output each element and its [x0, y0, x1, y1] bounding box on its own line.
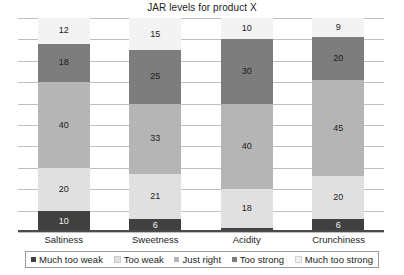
category-label-sweetness: Sweetness: [129, 234, 181, 246]
legend-item[interactable]: Much too weak: [31, 254, 103, 265]
category-label-acidity: Acidity: [221, 234, 273, 246]
legend-label: Much too weak: [39, 254, 103, 265]
legend-item[interactable]: Too weak: [114, 254, 164, 265]
bar-group[interactable]: 62045209: [312, 18, 364, 232]
bar-segment[interactable]: 30: [221, 39, 273, 103]
category-label-saltiness: Saltiness: [38, 234, 90, 246]
legend-swatch-icon: [232, 257, 237, 262]
legend-swatch-icon: [31, 257, 36, 262]
bar-segment-value: 40: [242, 142, 252, 151]
bar-segment-value: 6: [336, 221, 341, 230]
category-axis-labels: SaltinessSweetnessAcidityCrunchiness: [18, 234, 384, 246]
chart-container: JAR levels for product X 102040181262133…: [0, 0, 404, 275]
bar-segment[interactable]: 10: [38, 211, 90, 232]
bar-segment-value: 6: [153, 221, 158, 230]
bar-segment[interactable]: 9: [312, 18, 364, 37]
bar-segment-value: 20: [333, 193, 343, 202]
bar-segment-value: 20: [59, 185, 69, 194]
bar-segment[interactable]: 20: [38, 168, 90, 211]
bar-segment[interactable]: 15: [129, 18, 181, 50]
bar-segment-value: 18: [242, 204, 252, 213]
bar-segment-value: 15: [150, 30, 160, 39]
legend-item[interactable]: Much too strong: [295, 254, 373, 265]
legend-swatch-icon: [295, 256, 302, 263]
bar-segment-value: 21: [150, 192, 160, 201]
bar-segment[interactable]: 45: [312, 80, 364, 176]
bar-segment[interactable]: 10: [221, 18, 273, 39]
category-label-crunchiness: Crunchiness: [312, 234, 364, 246]
bar-segment[interactable]: 40: [221, 104, 273, 190]
legend-label: Just right: [182, 254, 221, 265]
x-axis-line: [18, 230, 384, 232]
bar-segment-value: 25: [150, 72, 160, 81]
bar-group[interactable]: 621332515: [129, 18, 181, 232]
plot-area: 102040181262133251521840301062045209: [18, 18, 384, 232]
legend-label: Much too strong: [305, 254, 373, 265]
bar-segment[interactable]: 12: [38, 18, 90, 44]
bar-series-container: 102040181262133251521840301062045209: [18, 18, 384, 232]
bar-segment[interactable]: 25: [129, 50, 181, 104]
legend-swatch-icon: [114, 256, 121, 263]
bar-segment[interactable]: 18: [221, 189, 273, 228]
bar-segment-value: 45: [333, 124, 343, 133]
legend-swatch-icon: [174, 257, 179, 262]
bar-segment[interactable]: 18: [38, 44, 90, 83]
bar-group[interactable]: 218403010: [221, 18, 273, 232]
bar-segment[interactable]: 20: [312, 176, 364, 219]
bar-segment-value: 12: [59, 26, 69, 35]
bar-group[interactable]: 1020401812: [38, 18, 90, 232]
gridline: [18, 232, 384, 233]
legend-item[interactable]: Too strong: [232, 254, 284, 265]
bar-segment[interactable]: 33: [129, 104, 181, 175]
bar-segment[interactable]: 40: [38, 82, 90, 168]
legend-label: Too strong: [240, 254, 284, 265]
legend-item[interactable]: Just right: [174, 254, 221, 265]
chart-title: JAR levels for product X: [0, 1, 404, 15]
bar-segment-value: 30: [242, 67, 252, 76]
bar-segment[interactable]: 21: [129, 174, 181, 219]
bar-segment-value: 18: [59, 58, 69, 67]
bar-segment-value: 33: [150, 134, 160, 143]
bar-segment-value: 10: [242, 24, 252, 33]
bar-segment-value: 10: [59, 217, 69, 226]
bar-segment-value: 40: [59, 121, 69, 130]
legend-label: Too weak: [124, 254, 164, 265]
bar-segment-value: 20: [333, 54, 343, 63]
bar-segment-value: 9: [336, 23, 341, 32]
bar-segment[interactable]: 20: [312, 37, 364, 80]
chart-legend: Much too weakToo weakJust rightToo stron…: [25, 251, 379, 268]
